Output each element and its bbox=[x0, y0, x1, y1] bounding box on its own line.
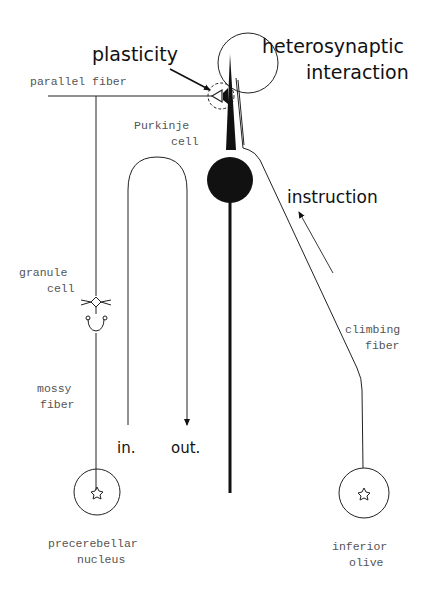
label-inferior: inferior bbox=[332, 540, 387, 553]
inferior-olive-circle bbox=[339, 468, 389, 518]
label-purkinje: Purkinje bbox=[134, 119, 189, 132]
label-parallel-fiber: parallel fiber bbox=[30, 75, 127, 88]
instruction-arrow bbox=[299, 212, 333, 273]
climbing-fiber-wrap bbox=[236, 78, 249, 150]
input-output-loop bbox=[128, 157, 187, 425]
climbing-fiber-wrap-inner bbox=[238, 80, 244, 145]
label-granule: granule bbox=[19, 266, 67, 279]
label-output: out. bbox=[171, 439, 200, 457]
label-plasticity: plasticity bbox=[92, 43, 178, 65]
label-nucleus: nucleus bbox=[77, 553, 125, 566]
label-climbing-fiber: fiber bbox=[365, 339, 400, 352]
label-mossy-fiber: fiber bbox=[40, 398, 75, 411]
label-instruction: instruction bbox=[287, 187, 378, 207]
label-interaction-text: interaction bbox=[306, 61, 409, 83]
inferior-olive-star-icon bbox=[358, 488, 370, 500]
label-heterosynaptic: heterosynaptic bbox=[262, 35, 404, 57]
label-purkinje-cell: cell bbox=[171, 135, 199, 148]
parallel-fiber-terminal bbox=[212, 90, 222, 102]
label-mossy: mossy bbox=[37, 382, 72, 395]
cerebellar-circuit-diagram: plasticity heterosynaptic interaction pa… bbox=[0, 0, 438, 593]
purkinje-soma bbox=[207, 157, 253, 203]
label-climbing: climbing bbox=[345, 323, 400, 336]
precerebellar-nucleus-circle bbox=[74, 469, 120, 515]
label-granule-cell: cell bbox=[47, 282, 75, 295]
precerebellar-star-icon bbox=[91, 487, 103, 499]
label-precerebellar: precerebellar bbox=[48, 537, 138, 550]
plasticity-arrow bbox=[170, 69, 210, 90]
purkinje-spine bbox=[223, 88, 228, 104]
granule-cell-icon bbox=[81, 297, 111, 331]
label-olive: olive bbox=[349, 556, 384, 569]
label-input: in. bbox=[117, 439, 135, 457]
